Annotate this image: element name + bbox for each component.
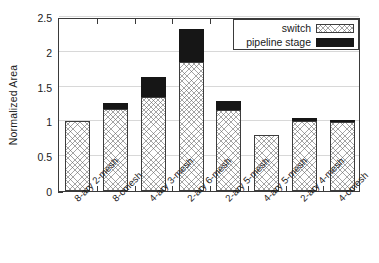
x-tick-mark — [210, 186, 211, 191]
x-tick-mark — [323, 186, 324, 191]
crosshatch-swatch-icon — [316, 24, 354, 33]
bar-8-cmesh — [103, 103, 128, 191]
chart-figure: Normalized Area 00.511.522.5 8-ary 2-mes… — [0, 0, 379, 263]
solid-black-swatch-icon — [316, 38, 354, 47]
y-tick-label: 2.5 — [22, 13, 52, 23]
y-tick-mark — [58, 192, 63, 193]
x-tick-mark — [286, 186, 287, 191]
bar-segment-pipeline-stage — [103, 103, 128, 109]
x-tick-mark-top — [97, 19, 98, 24]
bar-segment-pipeline-stage — [216, 101, 241, 110]
legend-label-switch: switch — [282, 23, 311, 34]
bar-segment-pipeline-stage — [330, 120, 355, 122]
x-tick-mark — [248, 186, 249, 191]
x-tick-mark-top — [135, 19, 136, 24]
bar-segment-pipeline-stage — [141, 77, 166, 97]
y-tick-label: 1.5 — [22, 83, 52, 93]
y-axis-title: Normalized Area — [7, 65, 19, 146]
bar-segment-pipeline-stage — [292, 118, 317, 121]
x-tick-mark — [135, 186, 136, 191]
x-tick-mark-top — [172, 19, 173, 24]
legend-entry-pipeline-stage: pipeline stage — [234, 36, 354, 49]
chart-legend: switch pipeline stage — [233, 19, 359, 50]
y-tick-label: 0.5 — [22, 152, 52, 162]
y-axis-title-wrap: Normalized Area — [14, 18, 28, 192]
x-tick-mark — [97, 186, 98, 191]
bar-4-ary-3-mesh — [141, 77, 166, 191]
gridline — [59, 51, 359, 52]
x-tick-mark-top — [210, 19, 211, 24]
bar-segment-switch — [103, 109, 128, 191]
bar-2-ary-5-mesh — [216, 101, 241, 191]
gridline — [59, 16, 359, 17]
y-tick-label: 1 — [22, 117, 52, 127]
y-tick-label: 2 — [22, 48, 52, 58]
y-tick-label: 0 — [22, 187, 52, 197]
x-tick-mark — [172, 186, 173, 191]
legend-label-pipeline-stage: pipeline stage — [246, 37, 311, 48]
legend-entry-switch: switch — [234, 22, 354, 35]
gridline — [59, 86, 359, 87]
bar-segment-pipeline-stage — [179, 29, 204, 62]
bar-segment-switch — [216, 110, 241, 191]
